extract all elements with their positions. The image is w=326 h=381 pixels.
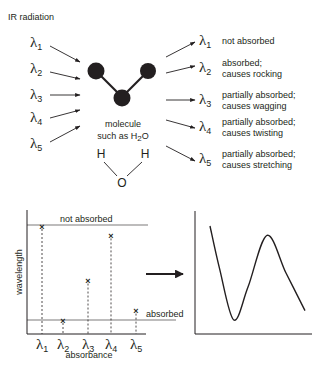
label-not-absorbed: not absorbed [60, 214, 113, 224]
water-formula: H H O [97, 147, 150, 190]
outgoing-desc-2-line2: causes rocking [222, 69, 282, 79]
data-point-5: × [133, 306, 138, 316]
x-tick-label-3: λ3 [82, 336, 94, 354]
bond-h-o-left [104, 162, 117, 176]
outgoing-desc-5-line1: partially absorbed; [222, 149, 296, 159]
data-point-3: × [85, 276, 90, 286]
atom-right [140, 63, 156, 79]
absorbance-chart: not absorbed absorbed wavelength absorba… [14, 210, 184, 360]
outgoing-desc-4-line1: partially absorbed; [222, 117, 296, 127]
oxygen: O [117, 176, 126, 190]
incoming-lambda-1: λ1 [30, 34, 42, 52]
incoming-arrow-5 [50, 126, 80, 142]
bond-h-o-right [127, 162, 142, 176]
incoming-arrow-4 [50, 110, 80, 118]
outgoing-arrows [166, 42, 195, 161]
incoming-arrows [50, 46, 80, 142]
spectrum-curve [210, 226, 305, 320]
x-tick-label-1: λ1 [36, 336, 48, 354]
outgoing-arrow-5 [166, 146, 195, 161]
x-tick-label-4: λ4 [105, 336, 117, 354]
incoming-lambda-3: λ3 [30, 86, 42, 104]
outgoing-lambda-2: λ2 [199, 59, 211, 77]
incoming-arrow-1 [50, 46, 80, 62]
incoming-lambda-5: λ5 [30, 135, 42, 153]
outgoing-lambda-4: λ4 [199, 118, 211, 136]
outgoing-desc-2-line1: absorbed; [222, 58, 262, 68]
ir-radiation-title: IR radiation [8, 12, 54, 22]
outgoing-arrow-4 [166, 120, 195, 128]
outgoing-arrow-1 [166, 42, 195, 57]
incoming-arrow-2 [50, 72, 80, 79]
incoming-lambda-4: λ4 [30, 109, 42, 127]
outgoing-desc-3-line2: causes wagging [222, 101, 287, 111]
molecule-caption-line2: such as H2O [97, 131, 149, 143]
ir-absorption-diagram: IR radiation λ1λ2λ3λ4λ5 molecule such as… [0, 0, 326, 381]
atom-center [114, 90, 131, 107]
hydrogen-right: H [141, 147, 150, 161]
label-absorbed: absorbed [146, 309, 184, 319]
x-tick-label-2: λ2 [57, 336, 69, 354]
outgoing-desc-4-line2: causes twisting [222, 128, 283, 138]
outgoing-desc-3-line1: partially absorbed; [222, 90, 296, 100]
outgoing-arrow-2 [166, 66, 195, 73]
x-tick-label-5: λ5 [130, 336, 142, 354]
outgoing-desc-5-line2: causes stretching [222, 160, 292, 170]
outgoing-desc-1-line1: not absorbed [222, 36, 275, 46]
y-axis-label: wavelength [14, 249, 24, 296]
hydrogen-left: H [97, 147, 106, 161]
data-point-2: × [60, 316, 65, 326]
incoming-lambda-2: λ2 [30, 60, 42, 78]
molecule-model [88, 63, 157, 107]
outgoing-lambda-1: λ1 [199, 32, 211, 50]
data-point-1: × [39, 222, 44, 232]
outgoing-lambda-3: λ3 [199, 91, 211, 109]
atom-left [88, 63, 105, 80]
outgoing-lambda-5: λ5 [199, 150, 211, 168]
spectrum-chart [195, 211, 312, 334]
molecule-caption-line1: molecule [105, 119, 141, 129]
data-point-4: × [108, 231, 113, 241]
